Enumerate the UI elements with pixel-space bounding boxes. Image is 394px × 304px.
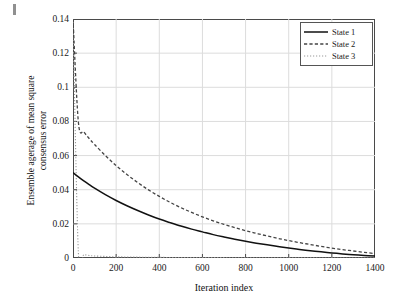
legend-item-state-1[interactable]: State 1	[303, 26, 369, 38]
legend-box: State 1State 2State 3	[300, 22, 373, 66]
y-axis-title: Ensemble agerage of mean square consensu…	[26, 41, 49, 241]
legend-item-label: State 3	[329, 51, 355, 61]
x-axis-title: Iteration index	[73, 282, 375, 293]
x-tick-label: 1400	[366, 263, 385, 273]
x-tick-label: 800	[238, 263, 252, 273]
x-tick-label: 600	[195, 263, 209, 273]
scan-artifact-mark	[13, 4, 16, 15]
x-tick-label: 200	[109, 263, 123, 273]
series-line-state-1	[73, 173, 375, 256]
y-axis-title-line-1: Ensemble agerage of mean square	[26, 41, 38, 241]
legend-item-label: State 1	[329, 27, 355, 37]
x-tick-label: 1000	[279, 263, 298, 273]
figure-container: 00.020.040.060.080.10.120.14 02004006008…	[0, 0, 394, 304]
x-tick-label: 1200	[322, 263, 341, 273]
y-tick-label: 0	[28, 253, 69, 263]
dotted-line-swatch-icon	[303, 51, 329, 61]
y-axis-title-line-2: consensus error	[37, 41, 49, 241]
legend-item-label: State 2	[329, 39, 355, 49]
legend-item-state-2[interactable]: State 2	[303, 38, 369, 50]
legend-item-state-3[interactable]: State 3	[303, 50, 369, 62]
x-tick-label: 400	[152, 263, 166, 273]
x-tick-label: 0	[71, 263, 76, 273]
dashed-line-swatch-icon	[303, 39, 329, 49]
y-tick-label: 0.14	[28, 14, 69, 24]
solid-line-swatch-icon	[303, 27, 329, 37]
